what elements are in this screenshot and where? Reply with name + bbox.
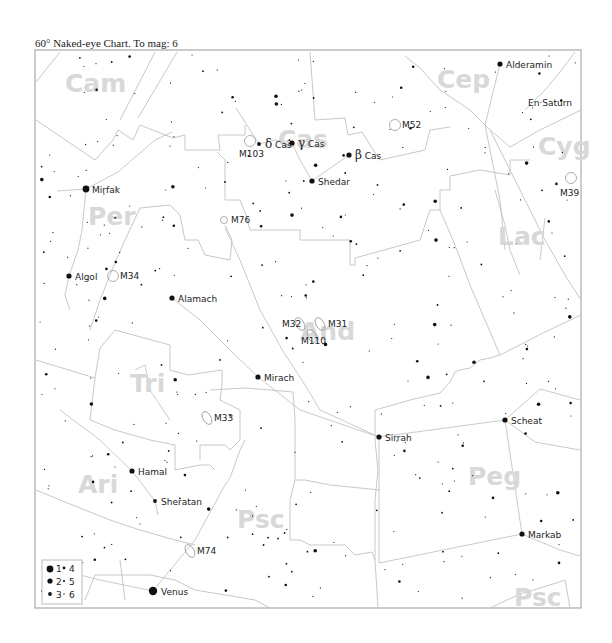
field-star: [400, 208, 401, 209]
star-label[interactable]: Mirach: [264, 373, 294, 383]
planet-label[interactable]: Venus: [161, 587, 188, 597]
field-star: [141, 284, 143, 286]
field-star: [104, 225, 105, 226]
named-star[interactable]: [169, 295, 174, 300]
field-star: [252, 203, 254, 205]
dso-label[interactable]: M74: [197, 546, 216, 556]
star-label[interactable]: Sheratan: [161, 497, 202, 507]
field-star: [362, 274, 364, 276]
named-star[interactable]: [497, 61, 502, 66]
field-star: [322, 227, 323, 228]
star-chart[interactable]: CamCasCepCygPerLacTriAriPegPscPscAnd M52…: [0, 0, 612, 643]
field-star: [125, 558, 127, 560]
dso-label[interactable]: M52: [402, 120, 421, 130]
field-star: [555, 183, 558, 186]
field-star: [438, 343, 439, 344]
star-label[interactable]: Shedar: [318, 177, 350, 187]
star-label[interactable]: Alamach: [178, 294, 217, 304]
field-star: [105, 268, 108, 271]
field-star: [454, 247, 455, 248]
field-star: [132, 322, 133, 323]
field-star: [170, 82, 171, 83]
dso-label[interactable]: M33: [214, 413, 233, 423]
field-star: [570, 415, 571, 416]
field-star: [345, 214, 346, 215]
named-star[interactable]: [255, 374, 260, 379]
field-star: [472, 360, 476, 364]
field-star: [291, 571, 293, 573]
field-star: [294, 452, 295, 453]
named-star[interactable]: [346, 152, 351, 157]
field-star: [219, 359, 221, 361]
star-label[interactable]: Scheat: [511, 416, 542, 426]
field-star: [55, 349, 56, 350]
field-star: [78, 176, 79, 177]
field-star: [524, 432, 527, 435]
named-star[interactable]: [309, 178, 314, 183]
dso-label[interactable]: M31: [328, 319, 347, 329]
named-star[interactable]: [502, 417, 507, 422]
field-star: [129, 205, 130, 206]
field-star: [227, 340, 228, 341]
field-star: [313, 549, 317, 553]
field-star: [307, 551, 309, 553]
field-star: [236, 509, 237, 510]
star-label[interactable]: Markab: [528, 530, 562, 540]
star-label[interactable]: Algol: [75, 272, 97, 282]
field-star: [298, 60, 299, 61]
field-star: [111, 61, 113, 63]
field-star: [196, 441, 197, 442]
field-star: [81, 536, 83, 538]
field-star: [118, 373, 119, 374]
field-star: [117, 135, 118, 136]
dso-label[interactable]: M34: [120, 271, 139, 281]
dso-label[interactable]: M32: [282, 319, 301, 329]
constellation-label: Psc: [237, 505, 285, 534]
field-star: [403, 203, 406, 206]
named-star[interactable]: [129, 468, 134, 473]
field-star: [109, 233, 110, 234]
field-star: [444, 561, 445, 562]
field-star: [288, 192, 290, 194]
field-star: [441, 512, 443, 514]
star-label[interactable]: δ Cas: [265, 137, 292, 151]
field-star: [402, 147, 403, 148]
star-label[interactable]: β Cas: [355, 148, 382, 162]
named-star[interactable]: [153, 499, 157, 503]
field-star: [130, 490, 132, 492]
field-star: [306, 297, 307, 298]
field-star: [298, 91, 299, 92]
field-star: [399, 250, 401, 252]
named-star[interactable]: [66, 273, 71, 278]
field-star: [285, 180, 286, 181]
dso-label[interactable]: M39: [560, 188, 579, 198]
star-label[interactable]: Mirfak: [92, 185, 121, 195]
planet-label[interactable]: En·Saturn: [528, 98, 572, 108]
field-star: [433, 323, 437, 327]
field-star: [235, 101, 236, 102]
field-star: [159, 268, 160, 269]
field-star: [526, 348, 529, 351]
named-star[interactable]: [289, 140, 294, 145]
field-star: [333, 236, 334, 237]
star-label[interactable]: Hamal: [138, 467, 167, 477]
star-label[interactable]: Sirrah: [385, 433, 412, 443]
field-star: [556, 491, 560, 495]
planet-venus-icon[interactable]: [149, 587, 157, 595]
field-star: [551, 233, 552, 234]
field-star: [440, 405, 442, 407]
named-star[interactable]: [376, 434, 381, 439]
field-star: [165, 189, 166, 190]
star-label[interactable]: γ Cas: [298, 136, 325, 150]
dso-label[interactable]: M76: [231, 215, 250, 225]
dso-label[interactable]: M110: [301, 336, 326, 346]
named-star[interactable]: [83, 186, 90, 193]
field-star: [468, 128, 469, 129]
named-star[interactable]: [519, 531, 524, 536]
field-star: [428, 230, 429, 231]
named-star[interactable]: [257, 142, 261, 146]
field-star: [161, 364, 163, 366]
field-star: [555, 388, 556, 389]
star-label[interactable]: Alderamin: [506, 60, 552, 70]
dso-label[interactable]: M103: [239, 149, 264, 159]
